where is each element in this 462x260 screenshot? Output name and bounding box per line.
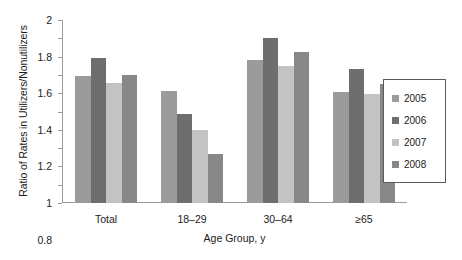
plot-area: 00.20.40.60.811.21.41.61.82 Total18–2930… — [62, 20, 407, 203]
bar-group-bars — [247, 20, 309, 203]
bar-2007 — [278, 66, 294, 203]
y-tick-label: 1.8 — [37, 51, 52, 63]
y-tick-mark: 2 — [58, 20, 62, 21]
legend-swatch-icon — [392, 139, 399, 146]
bar-2008 — [294, 52, 310, 203]
x-tick-label: 30–64 — [235, 213, 321, 225]
legend-item-2008: 2008 — [392, 153, 445, 175]
bar-2007 — [106, 83, 122, 203]
bar-2008 — [122, 75, 138, 203]
legend-swatch-icon — [392, 95, 399, 102]
y-tick-mark: 1.2 — [58, 93, 62, 94]
bar-2005 — [247, 60, 263, 203]
y-tick-mark: 1.8 — [58, 38, 62, 39]
bar-2006 — [263, 38, 279, 203]
y-tick-label: 2 — [46, 14, 52, 26]
bar-2006 — [349, 69, 365, 203]
legend-item-2005: 2005 — [392, 87, 445, 109]
bar-2005 — [333, 92, 349, 203]
y-axis-title: Ratio of Rates in Utilizers/Nonutilizers — [17, 6, 29, 216]
y-tick-mark: 0.2 — [58, 185, 62, 186]
x-tick-label: 18–29 — [149, 213, 235, 225]
bar-group: 18–29 — [149, 20, 235, 203]
bar-group-bars — [75, 20, 137, 203]
bar-group-bars — [161, 20, 223, 203]
bar-chart-figure: Ratio of Rates in Utilizers/Nonutilizers… — [0, 0, 462, 260]
y-tick-label: 1 — [46, 197, 52, 209]
y-tick-mark: 0.6 — [58, 148, 62, 149]
x-tick-label: ≥65 — [321, 213, 407, 225]
bar-groups: Total18–2930–64≥65 — [63, 20, 407, 203]
bar-2005 — [75, 76, 91, 203]
y-tick-mark: 0 — [58, 203, 62, 204]
y-tick-mark: 0.4 — [58, 166, 62, 167]
bar-group: 30–64 — [235, 20, 321, 203]
legend-item-2007: 2007 — [392, 131, 445, 153]
legend-swatch-icon — [392, 117, 399, 124]
y-tick-label: 0.8 — [37, 234, 52, 246]
legend-label: 2006 — [404, 115, 426, 126]
legend-label: 2005 — [404, 93, 426, 104]
bar-2005 — [161, 91, 177, 203]
y-tick-label: 1.2 — [37, 160, 52, 172]
legend-item-2006: 2006 — [392, 109, 445, 131]
x-tick-label: Total — [63, 213, 149, 225]
bar-2008 — [208, 154, 224, 203]
y-tick-mark: 1 — [58, 112, 62, 113]
bar-group: Total — [63, 20, 149, 203]
x-axis-title: Age Group, y — [62, 232, 407, 244]
y-tick-label: 1.4 — [37, 124, 52, 136]
bar-2007 — [364, 94, 380, 203]
y-tick-mark: 0.8 — [58, 130, 62, 131]
bar-2006 — [91, 58, 107, 203]
legend-label: 2007 — [404, 137, 426, 148]
legend-swatch-icon — [392, 161, 399, 168]
y-tick-mark: 1.4 — [58, 75, 62, 76]
y-tick-label: 1.6 — [37, 87, 52, 99]
y-tick-mark: 1.6 — [58, 57, 62, 58]
legend-label: 2008 — [404, 159, 426, 170]
bar-2007 — [192, 130, 208, 203]
bar-2006 — [177, 114, 193, 203]
legend: 2005200620072008 — [383, 79, 446, 183]
